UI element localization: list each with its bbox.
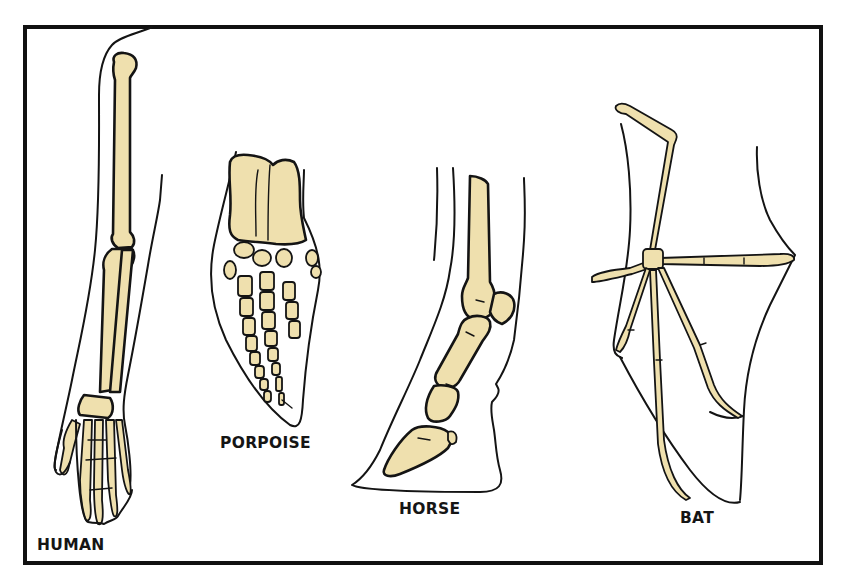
porpoise-flipper-illustration	[211, 152, 321, 426]
horse-leg-illustration	[352, 168, 525, 492]
human-arm-illustration	[55, 27, 162, 524]
label-human: HUMAN	[37, 536, 104, 554]
homology-diagram: HUMAN PORPOISE HORSE BAT	[0, 0, 843, 583]
bat-wing-illustration	[592, 104, 795, 503]
label-bat: BAT	[680, 509, 714, 527]
limbs-illustration	[0, 0, 843, 583]
label-porpoise: PORPOISE	[220, 434, 311, 452]
label-horse: HORSE	[399, 500, 460, 518]
